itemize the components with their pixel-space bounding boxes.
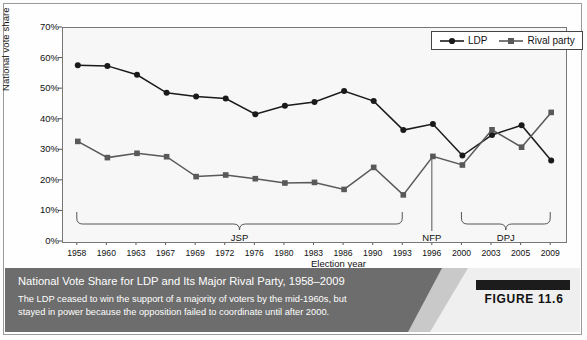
bracket-label-dpj: DPJ bbox=[481, 232, 531, 243]
caption-body-line-2: stayed in power because the opposition f… bbox=[18, 306, 438, 319]
figure-swatch bbox=[476, 280, 570, 290]
caption-body: The LDP ceased to win the support of a m… bbox=[18, 293, 438, 319]
figure-number-label: FIGURE 11.6 bbox=[476, 292, 572, 306]
caption-text-block: National Vote Share for LDP and Its Majo… bbox=[18, 275, 438, 319]
legend-label-ldp: LDP bbox=[468, 35, 487, 46]
caption-title: National Vote Share for LDP and Its Majo… bbox=[18, 275, 438, 287]
figure-caption-bar: National Vote Share for LDP and Its Majo… bbox=[5, 268, 580, 332]
legend-item-ldp[interactable]: LDP bbox=[439, 35, 487, 47]
legend-label-rival-party: Rival party bbox=[527, 35, 574, 46]
legend-item-rival-party[interactable]: Rival party bbox=[498, 35, 574, 47]
square-marker-icon bbox=[498, 35, 524, 47]
chart-region: National vote share 0%10%20%30%40%50%60%… bbox=[5, 5, 580, 267]
circle-marker-icon bbox=[439, 35, 465, 47]
bracket-jsp bbox=[77, 212, 402, 230]
bracket-label-jsp: JSP bbox=[215, 232, 265, 243]
marker-label-nfp: NFP bbox=[407, 232, 457, 243]
figure-page: National vote share 0%10%20%30%40%50%60%… bbox=[0, 0, 587, 340]
figure-number-block: FIGURE 11.6 bbox=[476, 280, 572, 306]
chart-legend: LDP Rival party bbox=[431, 31, 583, 50]
bracket-dpj bbox=[461, 212, 550, 230]
caption-body-line-1: The LDP ceased to win the support of a m… bbox=[18, 293, 438, 306]
